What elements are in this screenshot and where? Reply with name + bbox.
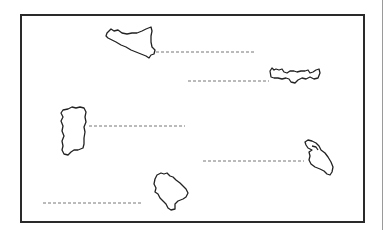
island-outline-1 <box>106 27 155 58</box>
island-outline-3 <box>61 107 86 155</box>
island-outline-4 <box>305 140 333 175</box>
island-outline-2 <box>270 68 320 83</box>
island-outline-5 <box>154 173 188 210</box>
islands-diagram <box>0 0 386 230</box>
